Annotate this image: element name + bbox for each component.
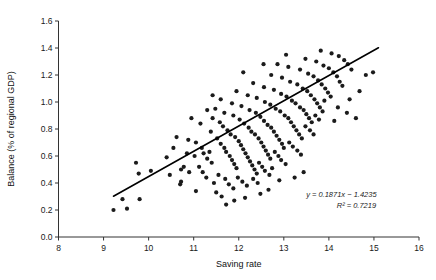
data-point [266, 153, 270, 157]
regression-equation-label: y = 0.1871x − 1.4235 [305, 190, 377, 199]
data-point [262, 119, 266, 123]
data-point [232, 198, 236, 202]
y-axis-tick-labels: 0.00.20.40.60.81.01.21.41.6 [41, 16, 53, 242]
data-point [211, 116, 215, 120]
y-axis-ticks [55, 21, 59, 237]
data-point [338, 80, 342, 84]
data-point [264, 149, 268, 153]
data-point [254, 111, 258, 115]
data-point [261, 62, 265, 66]
data-point [255, 96, 259, 100]
data-point [298, 105, 302, 109]
data-point [234, 89, 238, 93]
data-point [280, 76, 284, 80]
data-point [282, 146, 286, 150]
data-point [222, 111, 226, 115]
data-point [284, 162, 288, 166]
data-point [269, 73, 273, 77]
data-point [168, 173, 172, 177]
data-point [224, 203, 228, 207]
x-tick-label: 13 [279, 243, 289, 253]
data-point [171, 146, 175, 150]
data-point [364, 73, 368, 77]
data-point [240, 180, 244, 184]
data-point [308, 128, 312, 132]
y-tick-label: 1.2 [41, 70, 53, 80]
data-point [174, 135, 178, 139]
y-axis-title: Balance (% of regional GDP) [6, 71, 16, 187]
data-point [275, 62, 279, 66]
data-point [125, 207, 129, 211]
data-point [273, 150, 277, 154]
data-point [229, 132, 233, 136]
data-point [286, 65, 290, 69]
data-point [261, 144, 265, 148]
data-point [312, 97, 316, 101]
data-point [288, 80, 292, 84]
data-point [310, 120, 314, 124]
data-point [318, 105, 322, 109]
data-point [222, 146, 226, 150]
data-point [262, 85, 266, 89]
data-point [205, 157, 209, 161]
data-point [239, 143, 243, 147]
data-point [231, 113, 235, 117]
data-point [279, 158, 283, 162]
data-point [241, 70, 245, 74]
data-point [294, 128, 298, 132]
data-point [268, 157, 272, 161]
data-point [345, 111, 349, 115]
data-point [293, 101, 297, 105]
data-point [201, 170, 205, 174]
data-point [218, 120, 222, 124]
data-point [202, 151, 206, 155]
data-point [256, 136, 260, 140]
data-point [210, 161, 214, 165]
x-tick-label: 15 [369, 243, 379, 253]
data-point [214, 190, 218, 194]
r-squared-label: R² = 0.7219 [337, 201, 377, 210]
data-point [230, 101, 234, 105]
y-tick-label: 1.0 [41, 97, 53, 107]
data-point [303, 57, 307, 61]
data-point [332, 119, 336, 123]
data-point [320, 82, 324, 86]
x-tick-label: 12 [234, 243, 244, 253]
data-point [371, 70, 375, 74]
data-point [209, 130, 213, 134]
data-point [295, 149, 299, 153]
data-point [297, 132, 301, 136]
scatter-points [111, 49, 375, 213]
data-point [287, 140, 291, 144]
data-point [320, 109, 324, 113]
data-point [149, 169, 153, 173]
data-point [269, 126, 273, 130]
y-tick-label: 1.6 [41, 16, 53, 26]
data-point [255, 171, 259, 175]
data-point [276, 154, 280, 158]
data-point [272, 88, 276, 92]
data-point [315, 101, 319, 105]
data-point [237, 139, 241, 143]
data-point [263, 169, 267, 173]
x-tick-label: 9 [101, 243, 106, 253]
data-point [291, 144, 295, 148]
data-point [277, 178, 281, 182]
data-point [286, 116, 290, 120]
data-point [304, 112, 308, 116]
data-point [234, 166, 238, 170]
x-axis-ticks [59, 237, 420, 241]
data-point [192, 154, 196, 158]
data-point [194, 189, 198, 193]
data-point [233, 135, 237, 139]
y-tick-label: 0.8 [41, 124, 53, 134]
data-point [336, 105, 340, 109]
data-point [212, 181, 216, 185]
x-tick-label: 8 [56, 243, 61, 253]
data-point [263, 100, 267, 104]
data-point [228, 154, 232, 158]
data-point [319, 49, 323, 53]
data-point [270, 166, 274, 170]
data-point [134, 161, 138, 165]
data-point [337, 54, 341, 58]
